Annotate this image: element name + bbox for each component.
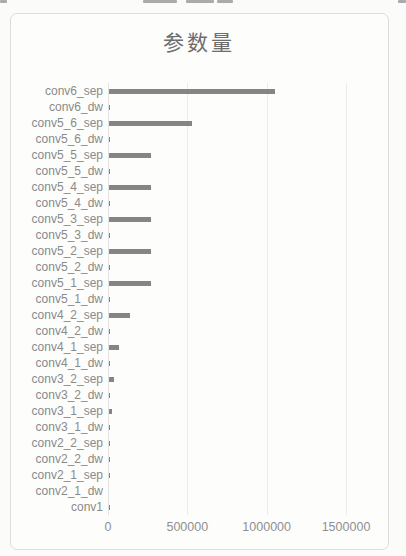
y-axis-label: conv2_2_dw: [0, 451, 103, 467]
x-axis-tick-label: 0: [105, 519, 112, 535]
bar: [109, 153, 151, 158]
y-axis-label: conv6_dw: [0, 99, 103, 115]
bar-row: [108, 195, 376, 211]
x-axis-tick-label: 1000000: [242, 519, 291, 535]
bar-row: [108, 147, 376, 163]
x-axis-tick-label: 500000: [166, 519, 208, 535]
bar-row: [108, 179, 376, 195]
bar: [109, 137, 110, 142]
bar: [109, 233, 110, 238]
y-axis-label: conv4_2_sep: [0, 307, 103, 323]
chart-screenshot: 参数量 conv6_sepconv6_dwconv5_6_sepconv5_6_…: [0, 0, 406, 556]
y-axis-label: conv5_4_sep: [0, 179, 103, 195]
y-axis-label: conv4_1_dw: [0, 355, 103, 371]
y-axis-label: conv5_1_sep: [0, 275, 103, 291]
bar-row: [108, 451, 376, 467]
y-axis-label: conv6_sep: [0, 83, 103, 99]
y-axis-label: conv5_2_sep: [0, 243, 103, 259]
y-axis-label: conv5_3_dw: [0, 227, 103, 243]
y-axis-label: conv5_2_dw: [0, 259, 103, 275]
bar-row: [108, 131, 376, 147]
plot-area: [108, 83, 376, 515]
y-axis-label: conv5_6_sep: [0, 115, 103, 131]
bar-row: [108, 211, 376, 227]
bar-row: [108, 467, 376, 483]
y-axis-label: conv4_1_sep: [0, 339, 103, 355]
y-axis-label: conv2_2_sep: [0, 435, 103, 451]
x-axis-labels: 050000010000001500000: [0, 519, 406, 537]
bar-row: [108, 115, 376, 131]
bar-row: [108, 163, 376, 179]
cropped-text-artifact: [398, 0, 406, 3]
y-axis-label: conv3_2_dw: [0, 387, 103, 403]
y-axis-labels: conv6_sepconv6_dwconv5_6_sepconv5_6_dwco…: [0, 83, 103, 515]
bar-row: [108, 307, 376, 323]
y-axis-label: conv5_3_sep: [0, 211, 103, 227]
y-axis-label: conv4_2_dw: [0, 323, 103, 339]
bar: [109, 169, 110, 174]
bar-row: [108, 99, 376, 115]
bar-row: [108, 403, 376, 419]
cropped-text-artifact: [217, 0, 233, 3]
bar: [109, 89, 275, 94]
y-axis-label: conv3_1_dw: [0, 419, 103, 435]
bar: [109, 201, 110, 206]
bar: [109, 185, 151, 190]
bar: [109, 121, 192, 126]
cropped-text-artifact: [186, 0, 214, 3]
bar-row: [108, 275, 376, 291]
bar-row: [108, 419, 376, 435]
y-axis-label: conv1: [0, 499, 103, 515]
y-axis-label: conv5_5_sep: [0, 147, 103, 163]
y-axis-label: conv2_1_sep: [0, 467, 103, 483]
chart-title: 参数量: [10, 26, 387, 56]
y-axis-label: conv5_5_dw: [0, 163, 103, 179]
bar-row: [108, 259, 376, 275]
bar-row: [108, 387, 376, 403]
bar-row: [108, 339, 376, 355]
bar-row: [108, 83, 376, 99]
bar-row: [108, 371, 376, 387]
bar: [109, 281, 151, 286]
x-axis-tick-label: 1500000: [322, 519, 371, 535]
y-axis-label: conv3_2_sep: [0, 371, 103, 387]
y-axis-label: conv3_1_sep: [0, 403, 103, 419]
cropped-text-artifact: [0, 0, 7, 3]
bar: [109, 409, 112, 414]
bar-row: [108, 435, 376, 451]
bar: [109, 441, 110, 446]
y-axis-label: conv5_4_dw: [0, 195, 103, 211]
bar: [109, 265, 110, 270]
bar-row: [108, 499, 376, 515]
y-axis-label: conv5_6_dw: [0, 131, 103, 147]
bar: [109, 297, 110, 302]
y-axis-label: conv2_1_dw: [0, 483, 103, 499]
bar-row: [108, 243, 376, 259]
bar-row: [108, 291, 376, 307]
bar-row: [108, 483, 376, 499]
bar: [109, 105, 110, 110]
bar: [109, 249, 151, 254]
y-axis-label: conv5_1_dw: [0, 291, 103, 307]
bar: [109, 377, 114, 382]
bar-row: [108, 323, 376, 339]
bar: [109, 313, 130, 318]
cropped-text-artifact: [143, 0, 177, 3]
bar-row: [108, 355, 376, 371]
bar: [109, 217, 151, 222]
bar-row: [108, 227, 376, 243]
bar: [109, 345, 119, 350]
